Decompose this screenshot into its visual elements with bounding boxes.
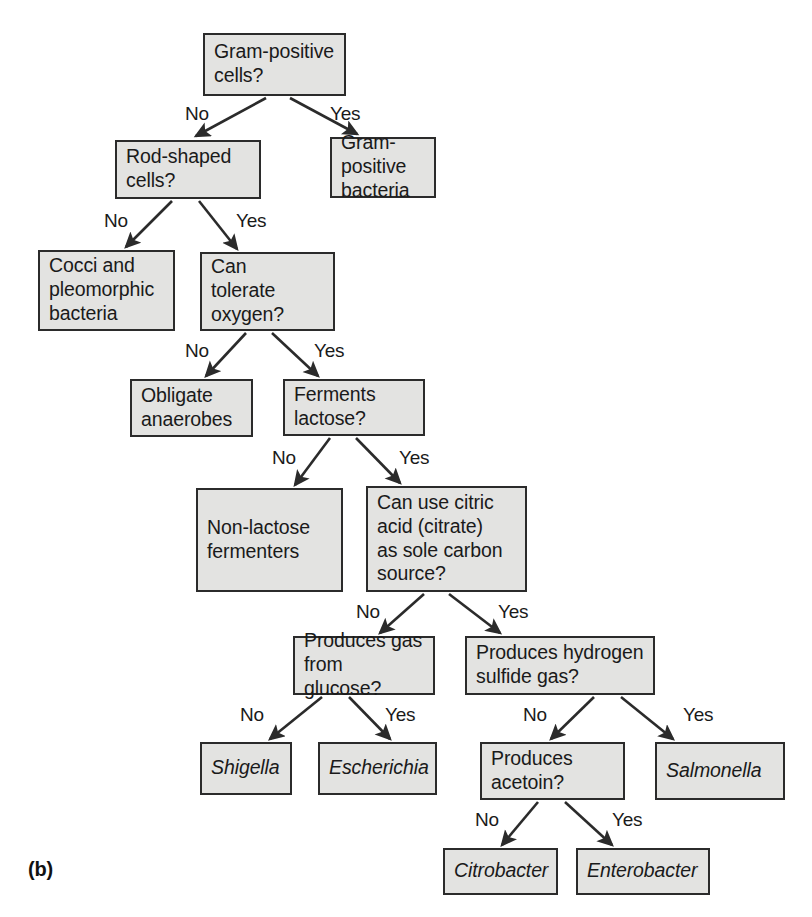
- edge-tolerate_oxygen-to-ferments_lactose: [272, 333, 318, 376]
- node-escherichia[interactable]: Escherichia: [318, 742, 437, 795]
- edge-label-citric_acid-yes: Yes: [498, 601, 528, 623]
- edge-label-gram_positive_cells-no: No: [185, 103, 209, 125]
- panel-label: (b): [28, 858, 53, 881]
- node-citrobacter[interactable]: Citrobacter: [443, 848, 558, 895]
- edge-label-gram_positive_cells-yes: Yes: [330, 103, 360, 125]
- node-salmonella[interactable]: Salmonella: [655, 742, 785, 800]
- edge-produces_acetoin-to-enterobacter: [565, 802, 612, 845]
- edge-label-hydrogen_sulfide-no: No: [523, 704, 547, 726]
- node-produces_acetoin[interactable]: Produces acetoin?: [480, 742, 625, 800]
- edge-rod_shaped_cells-to-tolerate_oxygen: [199, 201, 237, 249]
- edge-citric_acid-to-gas_from_glucose: [380, 594, 424, 633]
- edge-label-citric_acid-no: No: [356, 601, 380, 623]
- edge-rod_shaped_cells-to-cocci_pleomorphic: [126, 201, 172, 247]
- edge-label-produces_acetoin-no: No: [475, 809, 499, 831]
- node-enterobacter[interactable]: Enterobacter: [576, 848, 710, 895]
- node-non_lactose_ferm[interactable]: Non-lactose fermenters: [196, 488, 343, 592]
- edge-label-gas_from_glucose-yes: Yes: [385, 704, 415, 726]
- node-tolerate_oxygen[interactable]: Can tolerate oxygen?: [200, 252, 335, 331]
- edge-label-rod_shaped_cells-yes: Yes: [236, 210, 266, 232]
- edge-tolerate_oxygen-to-obligate_anaerobes: [206, 333, 246, 376]
- edge-label-ferments_lactose-yes: Yes: [399, 447, 429, 469]
- edge-label-gas_from_glucose-no: No: [240, 704, 264, 726]
- node-gas_from_glucose[interactable]: Produces gas from glucose?: [293, 636, 435, 695]
- edge-hydrogen_sulfide-to-salmonella: [621, 697, 673, 739]
- node-citric_acid[interactable]: Can use citric acid (citrate) as sole ca…: [366, 486, 527, 592]
- edge-citric_acid-to-hydrogen_sulfide: [449, 594, 500, 633]
- edge-produces_acetoin-to-citrobacter: [502, 802, 538, 845]
- edge-ferments_lactose-to-citric_acid: [356, 438, 400, 483]
- node-gram_positive_cells[interactable]: Gram-positive cells?: [203, 33, 346, 96]
- node-rod_shaped_cells[interactable]: Rod-shaped cells?: [115, 140, 261, 199]
- edge-hydrogen_sulfide-to-produces_acetoin: [551, 697, 594, 739]
- edge-label-produces_acetoin-yes: Yes: [612, 809, 642, 831]
- node-hydrogen_sulfide[interactable]: Produces hydrogen sulfide gas?: [465, 636, 655, 695]
- node-ferments_lactose[interactable]: Ferments lactose?: [283, 379, 425, 436]
- node-cocci_pleomorphic[interactable]: Cocci and pleomorphic bacteria: [38, 250, 175, 331]
- figure-canvas: Gram-positive cells?Gram-positive bacter…: [0, 0, 812, 917]
- node-shigella[interactable]: Shigella: [200, 742, 292, 795]
- edge-gas_from_glucose-to-escherichia: [349, 697, 390, 739]
- edge-label-tolerate_oxygen-no: No: [185, 340, 209, 362]
- edge-label-rod_shaped_cells-no: No: [104, 210, 128, 232]
- edge-gas_from_glucose-to-shigella: [270, 697, 322, 739]
- edge-label-ferments_lactose-no: No: [272, 447, 296, 469]
- edge-label-tolerate_oxygen-yes: Yes: [314, 340, 344, 362]
- edge-ferments_lactose-to-non_lactose_ferm: [295, 438, 330, 485]
- node-gram_positive_bact[interactable]: Gram-positive bacteria: [330, 137, 436, 198]
- node-obligate_anaerobes[interactable]: Obligate anaerobes: [130, 379, 253, 437]
- edge-label-hydrogen_sulfide-yes: Yes: [683, 704, 713, 726]
